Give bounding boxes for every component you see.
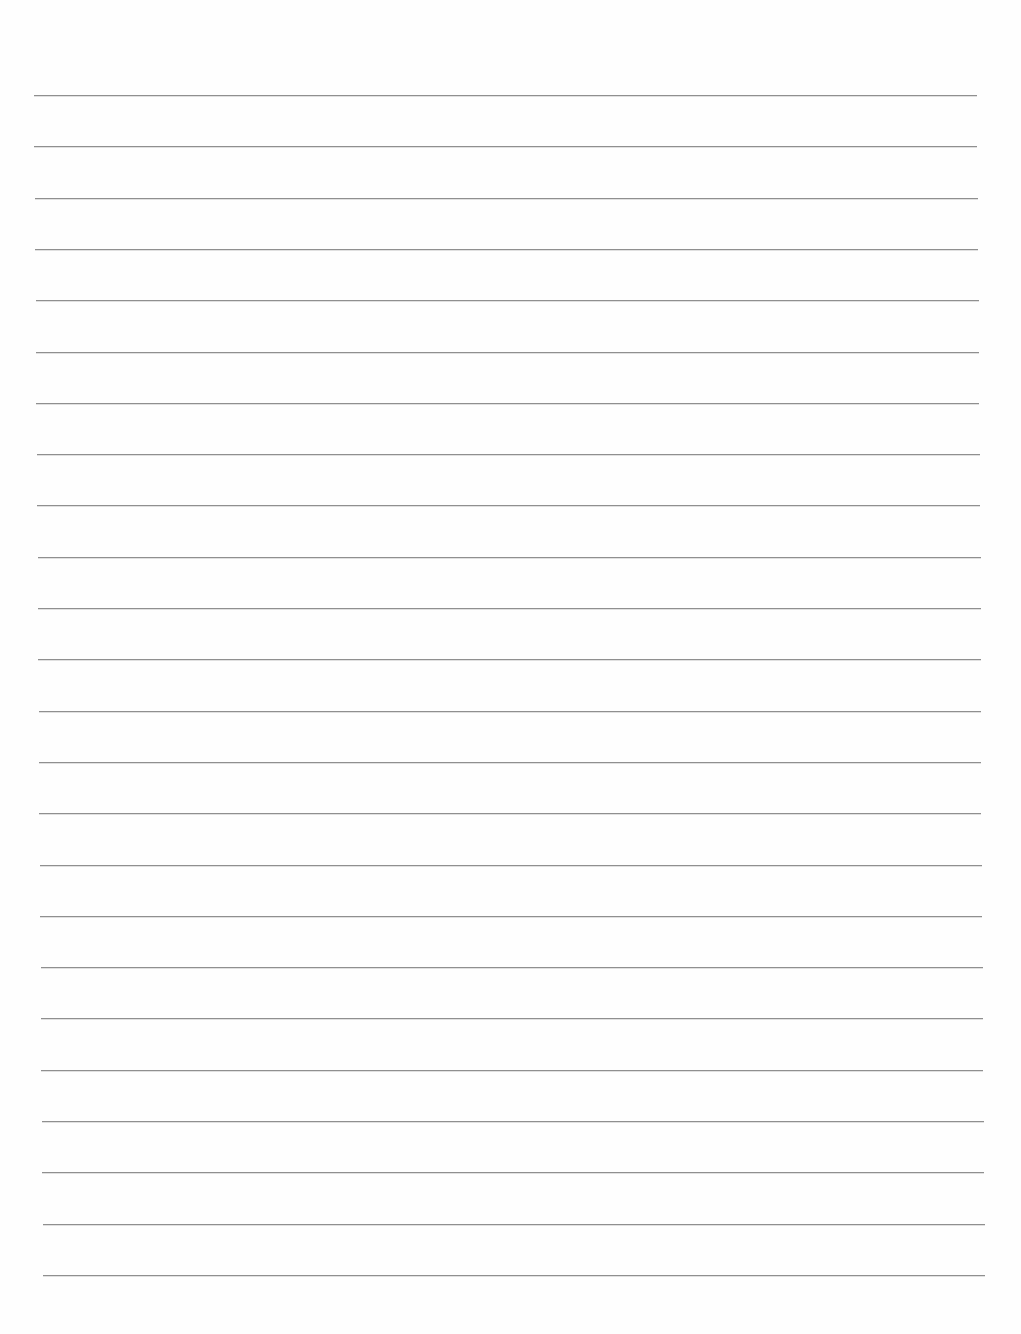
ruled-line — [34, 146, 977, 147]
ruled-line — [38, 557, 981, 558]
lined-paper-sheet — [0, 0, 1021, 1334]
ruled-line — [34, 95, 977, 96]
ruled-line — [39, 813, 981, 814]
ruled-line — [36, 300, 979, 301]
ruled-line — [37, 454, 980, 455]
ruled-line — [42, 1121, 984, 1122]
ruled-line — [41, 1018, 983, 1019]
ruled-line — [40, 916, 982, 917]
ruled-line — [35, 198, 978, 199]
ruled-line — [37, 505, 980, 506]
ruled-line — [39, 762, 981, 763]
ruled-line — [35, 249, 978, 250]
ruled-line — [38, 608, 981, 609]
ruled-line — [42, 1172, 984, 1173]
ruled-line — [40, 865, 982, 866]
ruled-line — [43, 1224, 985, 1225]
ruled-line — [41, 1070, 983, 1071]
ruled-line — [43, 1275, 985, 1276]
ruled-line — [36, 352, 979, 353]
ruled-line — [36, 403, 979, 404]
ruled-line — [39, 711, 981, 712]
ruled-line — [38, 659, 981, 660]
ruled-line — [41, 967, 983, 968]
